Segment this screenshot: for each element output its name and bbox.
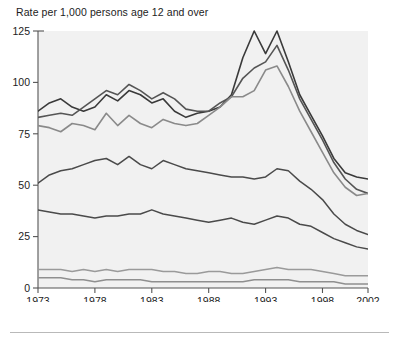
x-axis-tick-label: 1978 (83, 295, 107, 302)
y-axis-tick-label: 50 (18, 179, 30, 191)
y-axis-tick-label: 100 (12, 76, 30, 88)
line-chart-svg: 0255075100125197319781983198819931998200… (0, 22, 399, 302)
chart-page: Rate per 1,000 persons age 12 and over 0… (0, 0, 399, 341)
chart-title: Rate per 1,000 persons age 12 and over (16, 6, 208, 18)
x-axis-tick-label: 1983 (140, 295, 164, 302)
x-axis-tick-label: 1988 (197, 295, 221, 302)
x-axis-tick-label: 1993 (254, 295, 278, 302)
y-axis-tick-label: 25 (18, 230, 30, 242)
chart-plot-area: 0255075100125197319781983198819931998200… (0, 22, 399, 302)
x-axis-tick-label: 1998 (311, 295, 335, 302)
y-axis-tick-label: 125 (12, 25, 30, 37)
y-axis-tick-label: 75 (18, 128, 30, 140)
footer-divider (10, 332, 389, 333)
x-axis-tick-label: 1973 (26, 295, 50, 302)
y-axis-tick-label: 0 (24, 282, 30, 294)
plot-background (38, 31, 368, 288)
x-axis-tick-label: 2002 (356, 295, 380, 302)
